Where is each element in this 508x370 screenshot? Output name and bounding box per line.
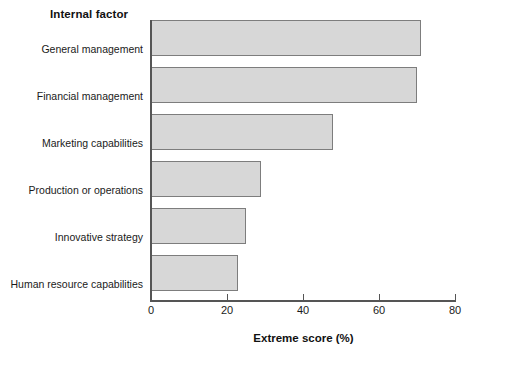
tick-label: 80: [435, 304, 475, 316]
tick-label: 40: [283, 304, 323, 316]
bar: [151, 208, 246, 244]
category-label: Marketing capabilities: [0, 137, 143, 149]
category-label: Financial management: [0, 90, 143, 102]
bar: [151, 67, 417, 103]
bar-chart: Internal factor General management Finan…: [0, 0, 508, 370]
tick-mark: [303, 294, 304, 301]
bar: [151, 114, 333, 150]
tick-mark: [455, 294, 456, 301]
value-axis-title: Extreme score (%): [151, 332, 456, 344]
bar-row: [151, 20, 455, 56]
tick-mark: [151, 294, 152, 301]
category-label: Human resource capabilities: [0, 278, 143, 290]
bar: [151, 161, 261, 197]
bar-row: [151, 67, 455, 103]
category-label: General management: [0, 43, 143, 55]
bar-row: [151, 114, 455, 150]
tick-label: 60: [359, 304, 399, 316]
tick-mark: [227, 294, 228, 301]
bar-row: [151, 208, 455, 244]
bar-row: [151, 161, 455, 197]
category-axis-line: [150, 20, 152, 302]
category-label: Innovative strategy: [0, 231, 143, 243]
bar: [151, 20, 421, 56]
bar: [151, 255, 238, 291]
tick-label: 20: [207, 304, 247, 316]
tick-label: 0: [131, 304, 171, 316]
bar-row: [151, 255, 455, 291]
category-label: Production or operations: [0, 184, 143, 196]
plot-area: [151, 20, 455, 300]
category-axis-title: Internal factor: [50, 8, 128, 20]
tick-mark: [379, 294, 380, 301]
